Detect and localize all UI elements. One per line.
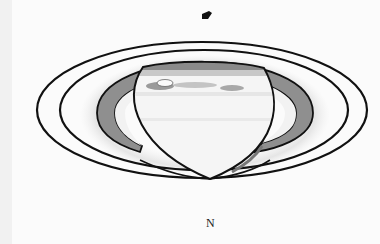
saturn-drawing: N — [0, 0, 380, 244]
north-label: N — [206, 216, 215, 231]
saturn-illustration — [0, 0, 380, 244]
